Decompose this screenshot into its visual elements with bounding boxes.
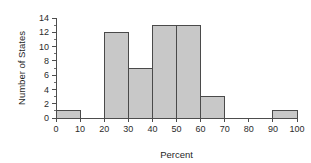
x-axis-title: Percent	[160, 149, 193, 160]
x-tick-label: 70	[220, 124, 230, 134]
x-tick-label: 0	[53, 124, 58, 134]
y-axis-title: Number of States	[16, 31, 27, 105]
x-tick-label: 30	[123, 124, 133, 134]
x-tick-label: 10	[75, 124, 85, 134]
x-tick-label: 60	[196, 124, 206, 134]
histogram-bar	[152, 25, 176, 118]
x-tick-label: 90	[268, 124, 278, 134]
x-tick-label: 20	[99, 124, 109, 134]
y-tick-label: 10	[39, 42, 49, 52]
x-tick-label: 40	[147, 124, 157, 134]
y-tick-label: 8	[44, 56, 49, 66]
y-tick-label: 6	[44, 70, 49, 80]
histogram-chart: 02468101214 0102030405060708090100 Perce…	[0, 0, 311, 163]
histogram-bar	[104, 32, 128, 118]
y-tick-label: 14	[39, 13, 49, 23]
histogram-bar	[177, 25, 201, 118]
x-tick-label: 80	[244, 124, 254, 134]
y-tick-label: 12	[39, 27, 49, 37]
histogram-bar	[201, 97, 225, 118]
chart-canvas: 02468101214 0102030405060708090100 Perce…	[0, 0, 311, 163]
y-tick-label: 4	[44, 85, 49, 95]
y-tick-label: 2	[44, 99, 49, 109]
y-tick-label: 0	[44, 113, 49, 123]
histogram-bar	[273, 111, 297, 118]
x-tick-label: 100	[289, 124, 304, 134]
x-tick-label: 50	[171, 124, 181, 134]
histogram-bar	[56, 111, 80, 118]
histogram-bar	[128, 68, 152, 118]
